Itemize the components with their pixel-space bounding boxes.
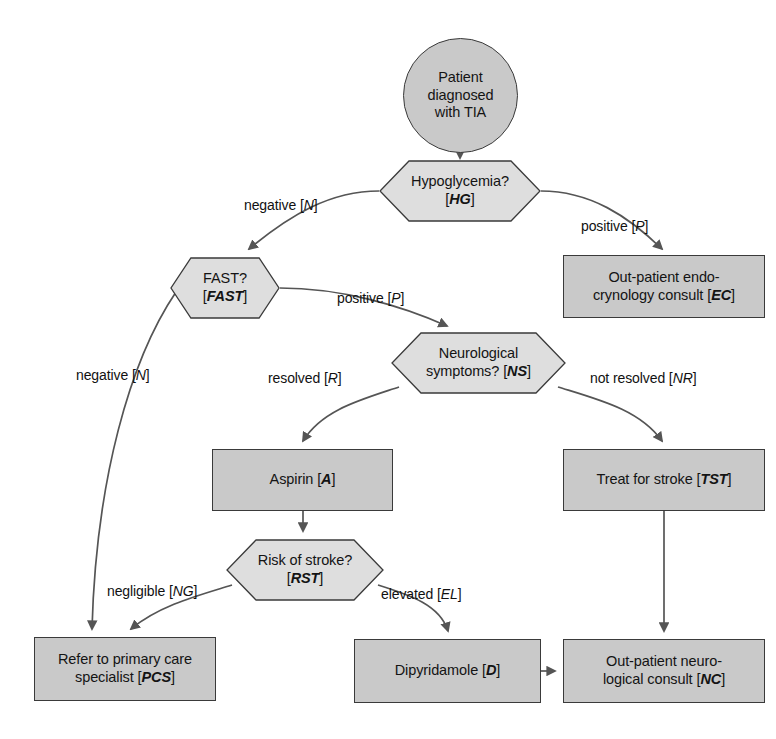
edge-neuro-resolved-to-aspirin — [303, 387, 399, 441]
edge-neuro-not-resolved-to-stroke-label: not resolved [NR] — [590, 370, 696, 386]
edge-fast-positive-to-neuro-label: positive [P] — [337, 290, 404, 306]
node-treat-for-stroke[interactable]: Treat for stroke [TST] — [563, 449, 765, 511]
edge-fast-negative-to-pcs-label: negative [N] — [76, 367, 150, 383]
node-label: Treat for stroke [TST] — [592, 471, 735, 489]
node-label: FAST? [FAST] — [170, 257, 280, 319]
node-label: Dipyridamole [D] — [391, 662, 505, 680]
node-label: Risk of stroke? [RST] — [226, 539, 384, 601]
node-patient-diagnosed-with-tia[interactable]: Patient diagnosed with TIA — [403, 38, 518, 153]
edge-hypoglycemia-negative-to-fast-label: negative [N] — [244, 197, 318, 213]
node-risk-of-stroke-decision[interactable]: Risk of stroke? [RST] — [226, 539, 384, 601]
node-neurological-symptoms-decision[interactable]: Neurological symptoms? [NS] — [391, 332, 566, 394]
flowchart-canvas: Patient diagnosed with TIAHypoglycemia? … — [0, 0, 776, 739]
node-label: Out-patient endo- crynology consult [EC] — [589, 269, 739, 305]
node-out-patient-neurological-consult[interactable]: Out-patient neuro- logical consult [NC] — [563, 639, 765, 703]
node-fast-decision[interactable]: FAST? [FAST] — [170, 257, 280, 319]
edge-risk-elevated-to-dipyridamole-label: elevated [EL] — [381, 586, 461, 602]
edge-hypoglycemia-positive-to-endo-label: positive [P] — [581, 218, 648, 234]
edge-fast-negative-to-pcs — [92, 292, 176, 629]
node-label: Patient diagnosed with TIA — [423, 69, 497, 123]
edge-neuro-resolved-to-aspirin-label: resolved [R] — [268, 370, 342, 386]
node-label: Hypoglycemia? [HG] — [379, 160, 541, 222]
node-label: Aspirin [A] — [266, 471, 340, 489]
node-aspirin-treatment[interactable]: Aspirin [A] — [212, 449, 393, 511]
node-label: Refer to primary care specialist [PCS] — [54, 651, 196, 687]
node-dipyridamole-treatment[interactable]: Dipyridamole [D] — [354, 639, 541, 703]
node-out-patient-endocrynology-consult[interactable]: Out-patient endo- crynology consult [EC] — [563, 255, 765, 318]
edge-neuro-not-resolved-to-stroke — [558, 387, 662, 441]
node-refer-to-primary-care-specialist[interactable]: Refer to primary care specialist [PCS] — [34, 637, 216, 701]
edge-risk-negligible-to-pcs-label: negligible [NG] — [107, 583, 197, 599]
node-hypoglycemia-decision[interactable]: Hypoglycemia? [HG] — [379, 160, 541, 222]
node-label: Out-patient neuro- logical consult [NC] — [599, 653, 729, 689]
node-label: Neurological symptoms? [NS] — [391, 332, 566, 394]
